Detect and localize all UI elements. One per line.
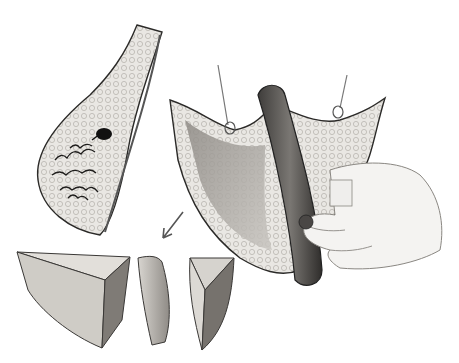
specimen-segment-3 bbox=[190, 258, 234, 350]
sequence-arrow bbox=[163, 212, 183, 238]
medical-illustration bbox=[0, 0, 459, 363]
specimen-segment-1 bbox=[17, 252, 130, 348]
wedge-excision-view bbox=[170, 65, 442, 285]
retractor-hook-right bbox=[333, 75, 347, 118]
specimen-segment-2 bbox=[138, 256, 169, 345]
lesion bbox=[96, 128, 112, 140]
organ-sagittal-view bbox=[38, 25, 162, 235]
illustration-canvas bbox=[0, 0, 459, 363]
specimen-segments bbox=[17, 252, 234, 350]
